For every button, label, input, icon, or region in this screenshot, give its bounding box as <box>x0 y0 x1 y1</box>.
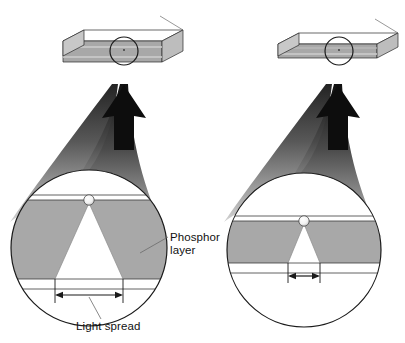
focus-dot-right <box>338 49 340 51</box>
phosphor-label-line2: layer <box>170 244 195 256</box>
diagram-canvas <box>0 0 405 343</box>
phosphor-label-line1: Phosphor <box>170 231 220 243</box>
focus-dot-left <box>123 49 125 51</box>
substrate-band-1-right <box>220 263 390 273</box>
light-source-right <box>299 216 309 226</box>
light-source-left <box>84 195 94 205</box>
phosphor-layer-label: Phosphorlayer <box>170 231 220 256</box>
light-spread-label: Light spread <box>76 320 141 333</box>
substrate-band-1-left <box>5 279 175 289</box>
